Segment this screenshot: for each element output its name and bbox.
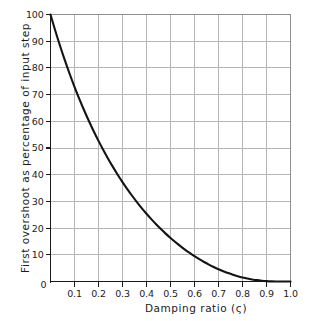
y-tick-label: 60 [32, 116, 44, 127]
y-tick-label: 10 [32, 249, 44, 260]
x-tick-label: 0.6 [187, 288, 202, 299]
x-tick-label: 0.9 [259, 288, 274, 299]
x-tick-label: 0.8 [235, 288, 250, 299]
chart-background [0, 0, 320, 321]
y-tick-label: 50 [32, 142, 44, 153]
x-tick-label: 0.3 [115, 288, 130, 299]
y-axis-title: First overshoot as percentage of input s… [19, 23, 31, 273]
x-tick-label: 1.0 [283, 288, 298, 299]
y-tick-label: 30 [32, 196, 44, 207]
y-tick-label: 100 [26, 9, 44, 20]
y-tick-label: 40 [32, 169, 44, 180]
y-tick-label: 90 [32, 36, 44, 47]
y-tick-label: 20 [32, 223, 44, 234]
x-tick-label: 0.5 [163, 288, 178, 299]
x-tick-label: 0.7 [211, 288, 226, 299]
x-axis-title: Damping ratio (ς) [145, 302, 247, 314]
x-tick-label: 0.1 [67, 288, 82, 299]
y-tick-label: 70 [32, 89, 44, 100]
chart-plot-svg: 00.10.20.30.40.50.60.70.80.91.0 10203040… [0, 0, 320, 321]
x-tick-label: 0.4 [139, 288, 154, 299]
x-tick-label: 0.2 [91, 288, 106, 299]
chart-figure: 00.10.20.30.40.50.60.70.80.91.0 10203040… [0, 0, 320, 321]
y-tick-label: 80 [32, 62, 44, 73]
x-tick-label: 0 [41, 279, 47, 290]
